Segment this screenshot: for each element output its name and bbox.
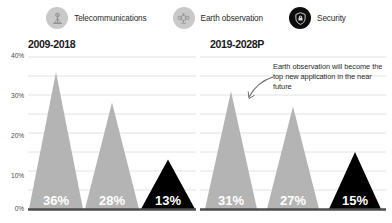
- data-label-telecommunications: 36%: [43, 193, 69, 208]
- legend-item-earth-observation: Earth observation: [173, 7, 263, 29]
- data-label-telecommunications: 31%: [218, 193, 244, 208]
- annotation-text: Earth observation will become the top ne…: [273, 62, 389, 93]
- legend-label: Earth observation: [201, 14, 263, 23]
- shield-icon: [289, 7, 311, 29]
- legend-label: Telecommunications: [74, 14, 146, 23]
- chart-svg-left: 36% 28% 13%: [6, 50, 196, 223]
- data-label-earth-observation: 27%: [280, 193, 306, 208]
- satellite-dish-icon: [46, 7, 68, 29]
- legend-item-telecommunications: Telecommunications: [46, 7, 146, 29]
- cone-telecommunications: [205, 91, 257, 209]
- data-label-security: 15%: [342, 193, 368, 208]
- plot-area-left: 36% 28% 13%: [6, 50, 196, 223]
- data-label-security: 13%: [155, 193, 181, 208]
- legend: Telecommunications Earth observation: [0, 0, 392, 36]
- chart-panel-2009-2018: 2009-2018 40% 30% 20% 10% 0%: [6, 36, 196, 223]
- legend-label: Security: [317, 14, 346, 23]
- data-label-earth-observation: 28%: [99, 193, 125, 208]
- chart-title: 2009-2018: [28, 38, 75, 50]
- chart-title: 2019-2028P: [210, 38, 264, 50]
- infographic-root: Telecommunications Earth observation: [0, 0, 392, 223]
- legend-item-security: Security: [289, 7, 346, 29]
- satellite-icon: [173, 7, 195, 29]
- cone-telecommunications: [29, 72, 83, 209]
